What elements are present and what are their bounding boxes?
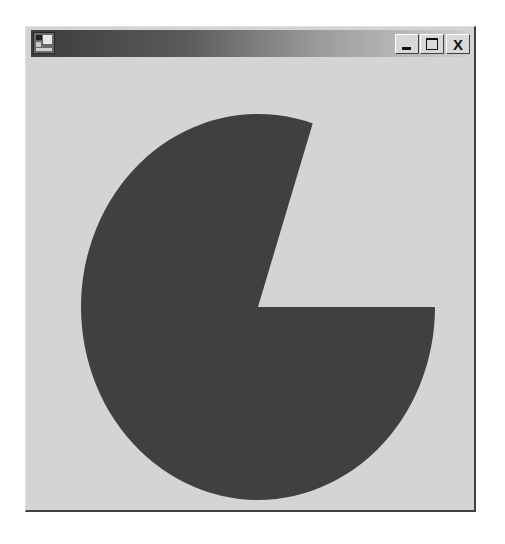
minimize-button[interactable] — [395, 34, 419, 54]
app-icon[interactable] — [33, 32, 55, 54]
minimize-icon — [402, 47, 411, 50]
client-area — [26, 57, 474, 510]
maximize-button[interactable] — [420, 34, 444, 54]
maximize-icon — [426, 38, 438, 50]
application-window: X — [25, 26, 476, 512]
title-bar[interactable]: X — [31, 30, 469, 57]
close-icon: X — [447, 35, 469, 53]
close-button[interactable]: X — [446, 34, 470, 54]
